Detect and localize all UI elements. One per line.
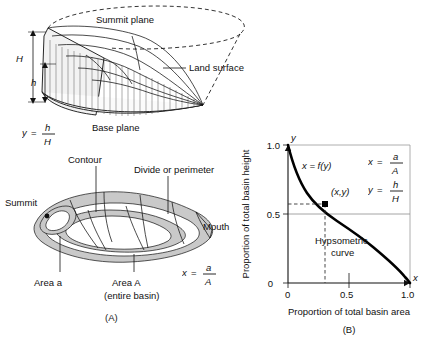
plot-formula-x-equals-a-over-A: x = a A — [368, 147, 428, 177]
annotated-point-marker — [322, 201, 328, 207]
formula-lhs: y — [22, 127, 28, 138]
formula-numerator: a — [393, 151, 398, 162]
label-land-surface: Land surface — [189, 62, 244, 73]
formula-denominator: H — [392, 193, 399, 204]
figure-hypsometric-analysis: H h Summit plane Land surface Base plane… — [0, 0, 431, 339]
formula-lhs: y — [368, 184, 374, 195]
xtick-label-0: 0 — [285, 289, 290, 300]
y-axis-marker: y — [290, 132, 297, 143]
label-mouth: Mouth — [203, 221, 229, 232]
x-axis-marker: x — [412, 272, 419, 283]
label-contour: Contour — [68, 154, 102, 165]
xtick-label-1: 0.5 — [340, 289, 353, 300]
xtick-label-2: 1.0 — [401, 289, 414, 300]
label-area-a: Area a — [34, 277, 63, 288]
basin-map-diagram: Contour Divide or perimeter Summit Mouth… — [0, 150, 240, 330]
ytick-label-0: 0 — [268, 278, 273, 289]
annotation-curve-name-2: curve — [331, 247, 354, 258]
x-axis-label: Proportion of total basin area — [288, 306, 411, 317]
formula-numerator: h — [45, 122, 50, 133]
panel-a-caption: (A) — [105, 312, 118, 323]
formula-equals: = — [31, 127, 37, 138]
label-summit: Summit — [5, 197, 38, 208]
plot-formula-y-equals-h-over-H: y = h H — [368, 175, 428, 205]
label-h: h — [31, 77, 36, 88]
formula-equals: = — [377, 184, 383, 195]
ytick-label-2: 1.0 — [267, 140, 280, 151]
label-summit-plane: Summit plane — [96, 14, 154, 25]
formula-numerator: a — [206, 262, 211, 273]
annotation-point-label: (x,y) — [331, 186, 349, 197]
ytick-label-1: 0.5 — [267, 209, 280, 220]
panel-b-caption: (B) — [343, 324, 356, 335]
formula-y-equals-h-over-H: y = h H — [22, 118, 92, 148]
label-area-A-sub: (entire basin) — [104, 290, 159, 301]
label-base-plane: Base plane — [92, 122, 140, 133]
formula-lhs: x — [368, 156, 374, 167]
summit-point — [45, 214, 50, 219]
formula-numerator: h — [393, 179, 398, 190]
summit-plane-outline-back — [110, 34, 240, 49]
annotation-function: x = f(y) — [301, 160, 331, 171]
formula-denominator: H — [44, 136, 51, 147]
label-divide-perimeter: Divide or perimeter — [134, 164, 214, 175]
formula-equals: = — [191, 267, 197, 278]
y-axis-label: Proportion of total basin height — [240, 149, 251, 278]
annotation-curve-name-1: Hypsometric — [315, 235, 368, 246]
label-area-A: Area A — [112, 277, 141, 288]
label-H: H — [16, 53, 23, 64]
formula-equals: = — [377, 156, 383, 167]
formula-denominator: A — [204, 276, 211, 287]
formula-lhs: x — [182, 267, 188, 278]
